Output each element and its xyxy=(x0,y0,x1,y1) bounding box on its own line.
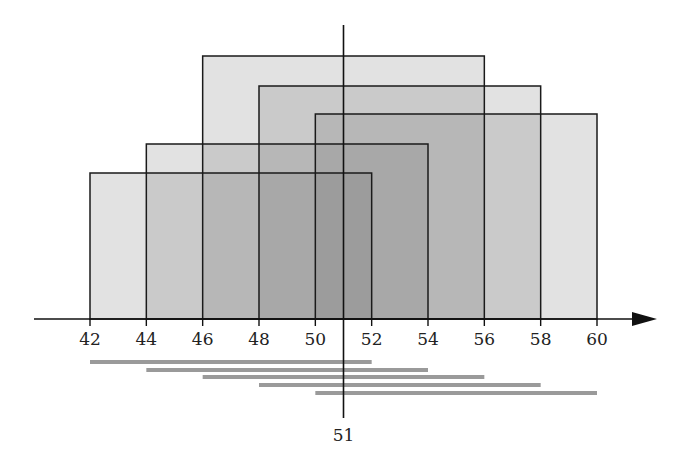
tick-label: 54 xyxy=(417,329,439,349)
axis-arrow-icon xyxy=(632,312,657,326)
tick-label: 42 xyxy=(79,329,101,349)
tick-label: 46 xyxy=(192,329,214,349)
tick-label: 50 xyxy=(305,329,327,349)
tick-label: 44 xyxy=(136,329,158,349)
interval-bar xyxy=(90,360,372,364)
tick-label: 60 xyxy=(586,329,608,349)
marker-label: 51 xyxy=(333,425,355,445)
interval-diagram: 42444648505254565860 51 xyxy=(0,0,678,456)
interval-bar xyxy=(315,391,597,395)
tick-label: 58 xyxy=(530,329,552,349)
tick-label: 52 xyxy=(361,329,383,349)
tick-label: 56 xyxy=(474,329,496,349)
interval-bar xyxy=(259,383,541,387)
tick-label: 48 xyxy=(248,329,270,349)
diagram-canvas: 42444648505254565860 51 xyxy=(0,0,678,456)
interval-bar xyxy=(146,368,428,372)
